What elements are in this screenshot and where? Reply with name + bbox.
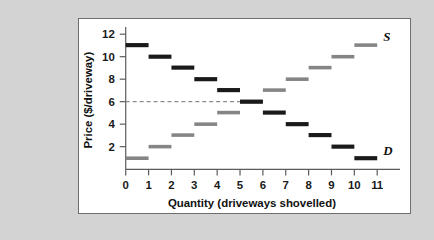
supply-demand-step-chart: 12 10 8 6 4 2 Price ($/driveway) 0 1 2	[79, 19, 410, 213]
y-axis-group: 12 10 8 6 4 2 Price ($/driveway)	[82, 27, 126, 170]
x-tick-label-6: 6	[260, 179, 266, 191]
x-tick-label-10: 10	[348, 179, 361, 191]
y-tick-label-10: 10	[102, 51, 115, 63]
x-tick-label-8: 8	[305, 179, 311, 191]
x-tick-label-3: 3	[191, 179, 197, 191]
x-tick-label-9: 9	[328, 179, 334, 191]
y-axis-title: Price ($/driveway)	[82, 52, 94, 149]
x-tick-label-5: 5	[237, 179, 244, 191]
y-tick-label-4: 4	[108, 118, 115, 130]
y-tick-label-6: 6	[108, 96, 114, 108]
chart-panel: 12 10 8 6 4 2 Price ($/driveway) 0 1 2	[78, 18, 411, 214]
y-tick-label-12: 12	[102, 28, 115, 40]
demand-curve-label: D	[382, 144, 392, 158]
x-tick-label-4: 4	[214, 179, 221, 191]
x-axis-group: 0 1 2 3 4 5 6 7 8 9 10 11 Quantity (driv…	[123, 169, 401, 209]
x-tick-label-1: 1	[145, 179, 152, 191]
x-tick-label-0: 0	[123, 179, 129, 191]
x-tick-label-2: 2	[168, 179, 174, 191]
x-tick-label-11: 11	[371, 179, 384, 191]
x-axis-title: Quantity (driveways shovelled)	[168, 197, 336, 209]
y-tick-label-8: 8	[108, 73, 114, 85]
x-tick-label-7: 7	[283, 179, 289, 191]
y-tick-label-2: 2	[108, 141, 114, 153]
supply-curve-label: S	[383, 30, 390, 44]
